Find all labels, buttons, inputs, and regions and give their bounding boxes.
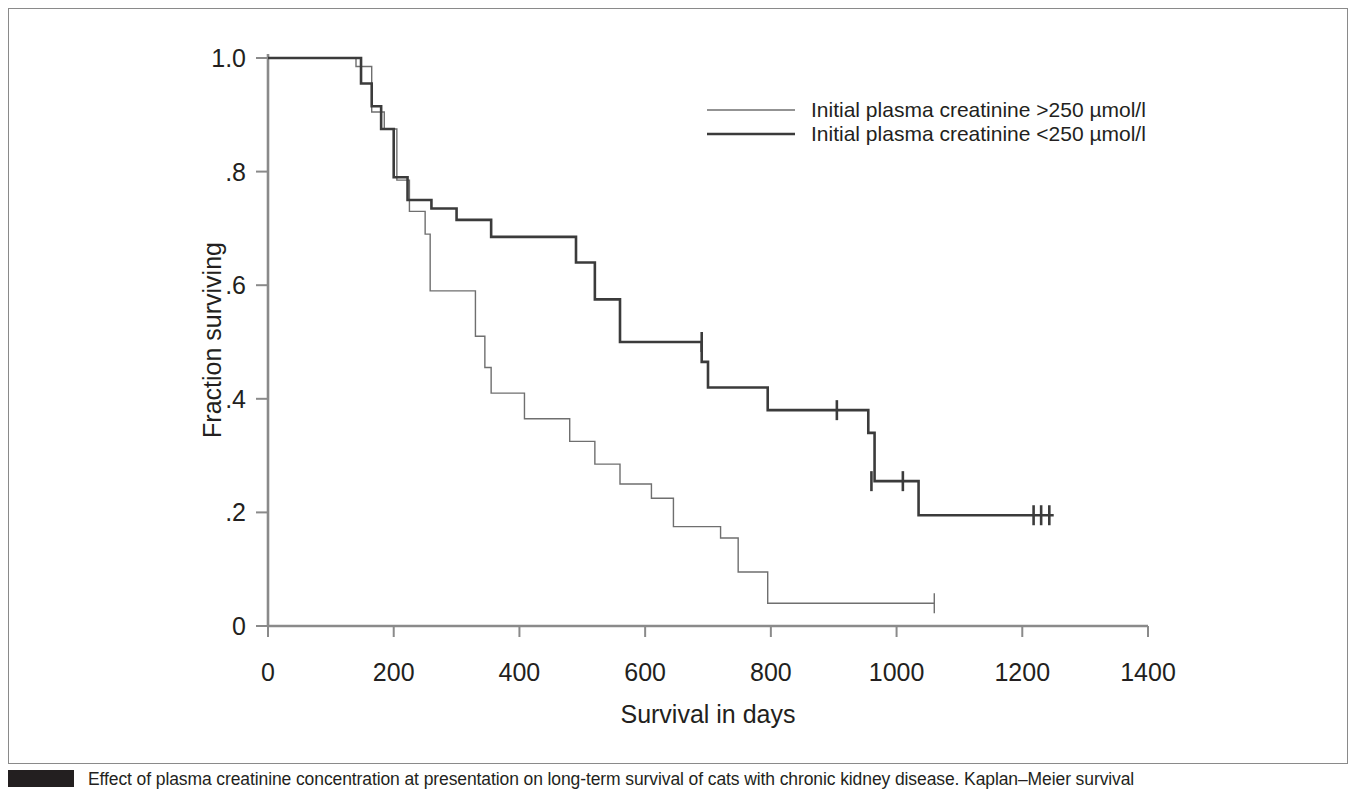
y-tick-label: .8 [225,158,246,186]
figure-page: 0200400600800100012001400 0.2.4.6.81.0 S… [0,0,1358,789]
y-axis-title: Fraction surviving [198,242,226,438]
caption-text: Effect of plasma creatinine concentratio… [88,770,1134,789]
legend-label: Initial plasma creatinine <250 µmol/l [811,122,1146,145]
figure-caption: Effect of plasma creatinine concentratio… [8,770,1348,789]
x-axis-ticks: 0200400600800100012001400 [261,626,1176,686]
x-tick-label: 600 [624,658,666,686]
y-tick-label: 1.0 [211,44,246,72]
x-tick-label: 1200 [994,658,1050,686]
x-axis-title: Survival in days [620,700,795,728]
x-tick-label: 0 [261,658,275,686]
x-tick-label: 800 [750,658,792,686]
x-tick-label: 200 [373,658,415,686]
chart-legend: Initial plasma creatinine >250 µmol/lIni… [707,98,1146,145]
x-tick-label: 1400 [1120,658,1176,686]
legend-label: Initial plasma creatinine >250 µmol/l [811,98,1146,121]
y-tick-label: .6 [225,271,246,299]
y-tick-label: 0 [232,612,246,640]
survival-plot: 0200400600800100012001400 0.2.4.6.81.0 S… [9,9,1349,765]
x-tick-label: 1000 [869,658,925,686]
y-tick-label: .2 [225,498,246,526]
y-tick-label: .4 [225,385,246,413]
x-tick-label: 400 [499,658,541,686]
caption-swatch [8,770,74,787]
figure-frame: 0200400600800100012001400 0.2.4.6.81.0 S… [8,8,1348,764]
